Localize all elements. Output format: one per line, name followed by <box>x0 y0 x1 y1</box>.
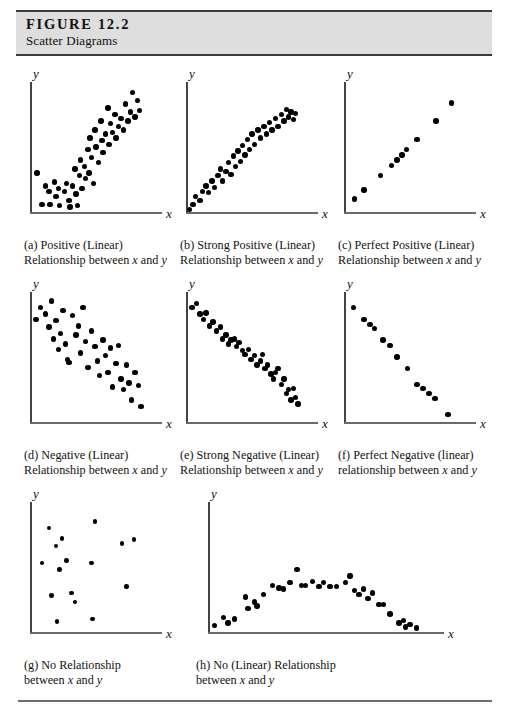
data-point <box>92 344 97 349</box>
data-point <box>63 341 68 346</box>
data-point <box>90 617 95 622</box>
data-point <box>132 537 137 542</box>
data-point <box>212 185 217 190</box>
data-point <box>121 387 126 392</box>
data-point <box>73 332 78 337</box>
data-point <box>295 401 300 406</box>
data-point <box>62 189 67 194</box>
data-point <box>242 152 247 157</box>
data-point <box>125 118 130 123</box>
caption-line-1: (d) Negative (Linear) <box>24 448 167 463</box>
data-point <box>43 311 48 316</box>
scatter-plot-b: yx <box>186 82 304 212</box>
data-point <box>116 343 121 348</box>
data-point <box>79 186 84 191</box>
data-point <box>34 170 39 175</box>
caption-line-1: (e) Strong Negative (Linear) <box>180 448 323 463</box>
data-point <box>258 358 263 363</box>
data-point <box>361 187 366 192</box>
data-point <box>93 144 98 149</box>
data-point <box>56 347 61 352</box>
data-point <box>95 358 100 363</box>
scatter-plot-f: yx <box>344 292 462 422</box>
data-point <box>267 120 272 125</box>
data-point <box>209 178 214 183</box>
data-point <box>414 382 419 387</box>
data-point <box>83 176 88 181</box>
data-point <box>226 160 231 165</box>
caption-line-1: (f) Perfect Negative (linear) <box>338 448 477 463</box>
caption-d: (d) Negative (Linear)Relationship betwee… <box>24 448 167 478</box>
data-point <box>57 203 62 208</box>
data-point <box>203 183 208 188</box>
x-axis-label-e: x <box>322 417 328 430</box>
data-point <box>46 324 51 329</box>
scatter-plot-d: yx <box>30 292 148 422</box>
data-point <box>281 376 286 381</box>
data-point <box>365 596 370 601</box>
figure-number: FIGURE 12.2 <box>26 16 492 33</box>
data-point <box>218 324 223 329</box>
data-point <box>197 198 202 203</box>
data-point <box>351 305 356 310</box>
data-point <box>303 583 308 588</box>
y-axis-label-a: y <box>33 67 39 80</box>
data-point <box>327 584 332 589</box>
data-point <box>361 586 366 591</box>
data-point <box>100 150 105 155</box>
data-point <box>426 391 431 396</box>
data-point <box>261 124 266 129</box>
caption-a: (a) Positive (Linear)Relationship betwee… <box>24 238 167 268</box>
data-point <box>138 404 143 409</box>
data-point <box>432 396 437 401</box>
y-axis-label-c: y <box>347 67 353 80</box>
data-point <box>124 362 129 367</box>
data-point <box>249 131 254 136</box>
data-point <box>58 331 63 336</box>
data-point <box>46 189 51 194</box>
data-point <box>347 573 352 578</box>
scatter-plot-a: yx <box>30 82 148 212</box>
data-point <box>231 153 236 158</box>
data-point <box>47 202 52 207</box>
caption-line-2: relationship between x and y <box>338 463 477 478</box>
data-point <box>51 336 56 341</box>
data-point <box>449 100 454 105</box>
data-point <box>264 131 269 136</box>
data-point <box>261 592 266 597</box>
data-point <box>321 580 326 585</box>
caption-line-2: Relationship between x and y <box>24 253 167 268</box>
x-axis-label-c: x <box>480 207 486 220</box>
data-point <box>60 536 65 541</box>
data-point <box>108 345 113 350</box>
data-point <box>252 353 257 358</box>
caption-line-2: Relationship between x and y <box>338 253 481 268</box>
data-point <box>252 142 257 147</box>
data-point <box>380 337 385 342</box>
data-point <box>255 127 260 132</box>
scatter-plot-g: yx <box>30 502 148 632</box>
data-point <box>136 383 141 388</box>
y-axis-line-b <box>186 82 188 212</box>
x-axis-label-h: x <box>448 627 454 640</box>
data-point <box>387 343 392 348</box>
data-point <box>407 622 412 627</box>
x-axis-line-b <box>186 212 318 214</box>
data-point <box>361 317 366 322</box>
data-point <box>52 179 57 184</box>
data-point <box>38 305 43 310</box>
x-axis-label-b: x <box>322 207 328 220</box>
data-point <box>85 365 90 370</box>
footer-divider <box>18 700 492 702</box>
data-point <box>39 202 44 207</box>
data-point <box>291 386 296 391</box>
data-point <box>232 616 237 621</box>
data-point <box>233 164 238 169</box>
data-point <box>356 592 361 597</box>
data-point <box>53 194 58 199</box>
data-point <box>228 172 233 177</box>
data-point <box>343 580 348 585</box>
scatter-plot-h: yx <box>208 502 430 632</box>
data-point <box>260 352 265 357</box>
data-point <box>64 558 69 563</box>
